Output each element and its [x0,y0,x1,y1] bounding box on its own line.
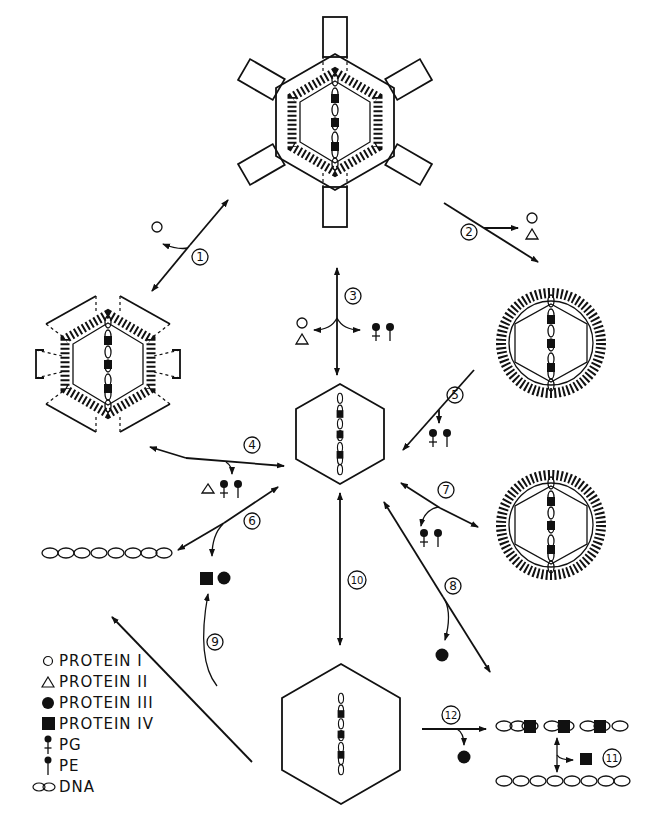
open-triangle-icon [40,676,56,688]
legend-item-pe: PE [40,755,154,776]
core-particle [296,384,384,484]
svg-text:5: 5 [451,388,459,402]
dna-chain-icon [32,781,56,793]
step-7-arrow: 7 [401,482,478,547]
complete-particle [238,17,432,227]
step-2-arrow: 2 [444,203,538,262]
step-4-arrow: 4 [150,437,284,498]
step-11-arrow: 11 [557,738,621,772]
svg-text:7: 7 [442,483,450,497]
svg-text:4: 4 [248,438,256,452]
partially-disassembled-particle [36,296,180,432]
svg-text:12: 12 [445,710,458,721]
open-circle-icon [40,655,56,667]
legend-item-protein-ii: PROTEIN II [40,671,154,692]
free-dna-bottom [496,776,630,786]
step-12-arrow: 12 [422,706,486,764]
core-particle-bottom [282,664,400,804]
svg-text:11: 11 [606,753,619,764]
svg-text:3: 3 [349,289,357,303]
legend-item-protein-iii: PROTEIN III [40,692,154,713]
filled-circle-icon [40,696,56,710]
step-10-arrow: 10 [340,493,366,645]
lipid-vesicle-upper [501,293,601,393]
legend-item-protein-iv: PROTEIN IV [40,713,154,734]
svg-text:6: 6 [248,514,256,528]
dna-protein-iv-complex [496,720,628,733]
pe-lipid-icon [40,756,56,776]
legend-item-pg: PG [40,734,154,755]
pg-lipid-icon [40,735,56,755]
step-8-arrow: 8 [384,502,490,672]
svg-text:8: 8 [449,579,457,593]
legend-item-dna: DNA [32,776,154,797]
step-5-arrow: 5 [403,370,474,450]
svg-text:2: 2 [465,225,473,239]
lipid-vesicle-lower [501,475,601,575]
legend: PROTEIN I PROTEIN II PROTEIN III PROTEIN… [40,650,154,797]
svg-text:10: 10 [351,575,364,586]
step-1-arrow: 1 [152,200,228,291]
svg-text:9: 9 [211,635,219,649]
legend-item-protein-i: PROTEIN I [40,650,154,671]
step-3-arrow: 3 [296,268,394,375]
step-6-arrow: 6 [178,487,278,585]
svg-text:1: 1 [196,250,204,264]
filled-square-icon [40,717,56,730]
free-dna [42,548,172,558]
